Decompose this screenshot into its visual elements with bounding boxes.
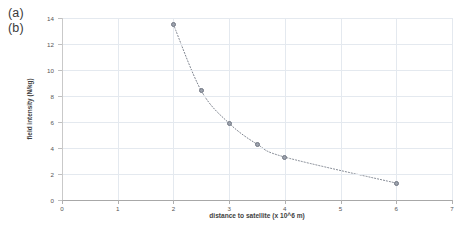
x-axis-tick-label: 5 [339,205,342,212]
x-axis-tick [118,200,119,204]
y-axis-tick-label: 6 [51,119,54,126]
x-axis-tick [229,200,230,204]
y-axis-tick [58,174,62,175]
x-axis-title: distance to satellite (x 10^6 m) [62,212,452,219]
y-axis-tick [58,18,62,19]
y-axis-line [62,18,63,200]
data-point [255,142,260,147]
gridline-vertical [285,18,286,200]
y-axis-tick [58,96,62,97]
x-axis-tick [452,200,453,204]
gridline-vertical [452,18,453,200]
x-axis-tick-label: 7 [450,205,453,212]
x-axis-tick-label: 1 [116,205,119,212]
y-axis-tick [58,44,62,45]
gridline-vertical [173,18,174,200]
data-point [227,121,232,126]
y-axis-tick [58,148,62,149]
y-axis-tick-label: 14 [47,15,54,22]
y-axis-tick [58,200,62,201]
gridline-horizontal [62,44,452,45]
x-axis-tick-label: 0 [60,205,63,212]
y-axis-tick-label: 2 [51,171,54,178]
gridline-horizontal [62,96,452,97]
gridline-horizontal [62,18,452,19]
data-point [394,181,399,186]
gridline-vertical [396,18,397,200]
x-axis-tick-label: 6 [395,205,398,212]
x-axis-tick-label: 2 [172,205,175,212]
y-axis-tick [58,70,62,71]
y-axis-tick-label: 4 [51,145,54,152]
gridline-horizontal [62,122,452,123]
x-axis-tick-label: 4 [283,205,286,212]
gridline-vertical [341,18,342,200]
data-point [282,155,287,160]
field-intensity-chart: distance to satellite (x 10^6 m) field i… [0,0,456,227]
gridline-vertical [229,18,230,200]
y-axis-tick [58,122,62,123]
y-axis-tick-label: 12 [47,41,54,48]
figure-panel: (a) (b) distance to satellite (x 10^6 m)… [0,0,456,227]
gridline-horizontal [62,148,452,149]
x-axis-tick [396,200,397,204]
gridline-horizontal [62,174,452,175]
data-point [199,88,204,93]
gridline-horizontal [62,70,452,71]
y-axis-tick-label: 10 [47,67,54,74]
y-axis-tick-label: 0 [51,197,54,204]
x-axis-tick [341,200,342,204]
y-axis-tick-label: 8 [51,93,54,100]
x-axis-line [62,200,452,201]
y-axis-title: field intensity (N/kg) [26,78,33,139]
gridline-vertical [118,18,119,200]
trend-line [62,18,452,200]
data-point [171,22,176,27]
plot-area [62,18,452,200]
x-axis-tick [62,200,63,204]
x-axis-tick [173,200,174,204]
x-axis-tick-label: 3 [227,205,230,212]
x-axis-tick [285,200,286,204]
